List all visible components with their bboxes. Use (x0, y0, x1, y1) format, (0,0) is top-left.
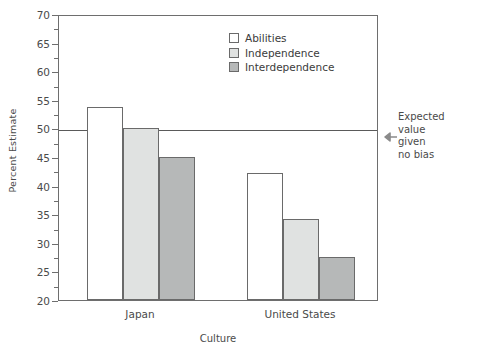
legend-label: Interdependence (245, 62, 334, 73)
legend-label: Independence (245, 48, 320, 59)
legend-item[interactable]: Independence (229, 48, 334, 59)
y-tick-label: 40 (37, 181, 50, 193)
bar[interactable] (283, 219, 319, 300)
y-tick-label: 65 (37, 38, 50, 50)
bar-group (87, 16, 195, 300)
y-tick-label: 25 (37, 266, 50, 278)
legend-item[interactable]: Interdependence (229, 62, 334, 73)
x-tick-label: United States (264, 308, 335, 320)
bar[interactable] (87, 107, 123, 300)
y-tick-label: 45 (37, 152, 50, 164)
y-tick-label: 60 (37, 66, 50, 78)
annotation-line-3: given (398, 136, 478, 149)
annotation-line-4: no bias (398, 149, 478, 162)
y-tick-label: 30 (37, 238, 50, 250)
plot-frame: AbilitiesIndependenceInterdependence (58, 15, 378, 301)
y-tick-label: 55 (37, 95, 50, 107)
legend-swatch-icon (229, 48, 239, 58)
expected-value-annotation: Expected value given no bias (398, 111, 478, 161)
legend-swatch-icon (229, 62, 239, 72)
legend-swatch-icon (229, 33, 239, 43)
annotation-arrow-icon (378, 131, 398, 143)
x-tick-label: Japan (125, 308, 154, 320)
annotation-line-1: Expected (398, 111, 478, 124)
bar[interactable] (247, 173, 283, 300)
bar-chart-figure: Percent Estimate 2025303540455055606570 … (0, 0, 480, 362)
legend-item[interactable]: Abilities (229, 33, 334, 44)
x-axis-title: Culture (58, 333, 378, 344)
bar[interactable] (159, 157, 195, 300)
y-axis-title: Percent Estimate (2, 0, 24, 300)
y-tick-label: 20 (37, 295, 50, 307)
annotation-line-2: value (398, 124, 478, 137)
legend: AbilitiesIndependenceInterdependence (229, 33, 334, 73)
y-axis-title-text: Percent Estimate (8, 108, 19, 192)
y-tick-label: 70 (37, 9, 50, 21)
y-tick-label: 50 (37, 123, 50, 135)
x-axis-tick-labels: JapanUnited States (58, 308, 378, 324)
bar[interactable] (319, 257, 355, 300)
y-tick-mark (52, 301, 58, 302)
y-axis-tick-labels: 2025303540455055606570 (24, 15, 50, 301)
legend-label: Abilities (245, 33, 287, 44)
y-tick-label: 35 (37, 209, 50, 221)
bar[interactable] (123, 128, 159, 300)
